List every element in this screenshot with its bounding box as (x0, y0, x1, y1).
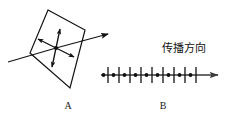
axis-dot (145, 73, 149, 77)
axis-dot (134, 73, 138, 77)
panel-label-b: B (153, 101, 173, 111)
vibration-arrow-diagonal-downright (56, 48, 74, 57)
vibration-arrow-vertical-down (52, 48, 56, 67)
panel-a-group (8, 10, 108, 88)
panel-b-group (101, 67, 218, 83)
axis-dot (167, 73, 171, 77)
physics-figure-polarization: 传播方向 A B (0, 0, 230, 124)
longitudinal-vibration-dots (102, 73, 193, 77)
figure-vector-layer (0, 0, 230, 124)
axis-dot (112, 73, 116, 77)
axis-dot (123, 73, 127, 77)
axis-dot (178, 73, 182, 77)
vibration-arrow-cross (38, 29, 74, 67)
panel-label-a: A (58, 101, 78, 111)
incident-ray-segment-left (8, 48, 56, 62)
incident-ray-segment-right (56, 34, 108, 48)
axis-dot (189, 73, 193, 77)
vibration-cross-center-dot (54, 46, 58, 50)
propagation-direction-label: 传播方向 (162, 43, 206, 54)
axis-dot (156, 73, 160, 77)
axis-dot (102, 73, 106, 77)
vibration-arrow-diagonal-upleft (38, 39, 56, 48)
vibration-arrow-vertical-up (56, 29, 60, 48)
